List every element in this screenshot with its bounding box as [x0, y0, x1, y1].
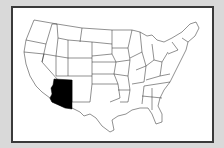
- map-frame: [11, 6, 214, 143]
- us-outline: [24, 20, 199, 132]
- state-arizona[interactable]: [50, 79, 72, 109]
- us-map: [13, 8, 212, 141]
